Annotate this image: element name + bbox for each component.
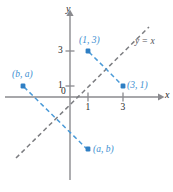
x-axis-label: x bbox=[165, 90, 169, 100]
line-label-y-equals-x: y = x bbox=[135, 37, 155, 47]
point-label-3-1: (3, 1) bbox=[127, 81, 148, 91]
point-1-3 bbox=[86, 49, 91, 54]
x-axis-arrowhead bbox=[158, 93, 165, 100]
y-axis-label: y bbox=[66, 4, 70, 14]
point-b-a bbox=[21, 84, 26, 89]
plot-svg bbox=[0, 0, 173, 192]
connector-upper bbox=[89, 52, 122, 85]
y-tick-label-3: 3 bbox=[58, 46, 63, 56]
point-label-a-b: (a, b) bbox=[93, 145, 114, 155]
point-label-b-a: (b, a) bbox=[12, 70, 33, 80]
coordinate-plane-figure: y x 0 1 3 3 1 (1, 3) (3, 1) (b, a) (a, b… bbox=[0, 0, 173, 192]
point-a-b bbox=[86, 147, 91, 152]
x-tick-label-1: 1 bbox=[86, 103, 91, 113]
y-tick-label-1: 1 bbox=[58, 81, 63, 91]
tick-marks-group bbox=[66, 51, 124, 102]
point-3-1 bbox=[121, 84, 126, 89]
point-label-1-3: (1, 3) bbox=[79, 36, 100, 46]
x-tick-label-3: 3 bbox=[121, 103, 126, 113]
line-y-equals-x bbox=[16, 27, 149, 158]
